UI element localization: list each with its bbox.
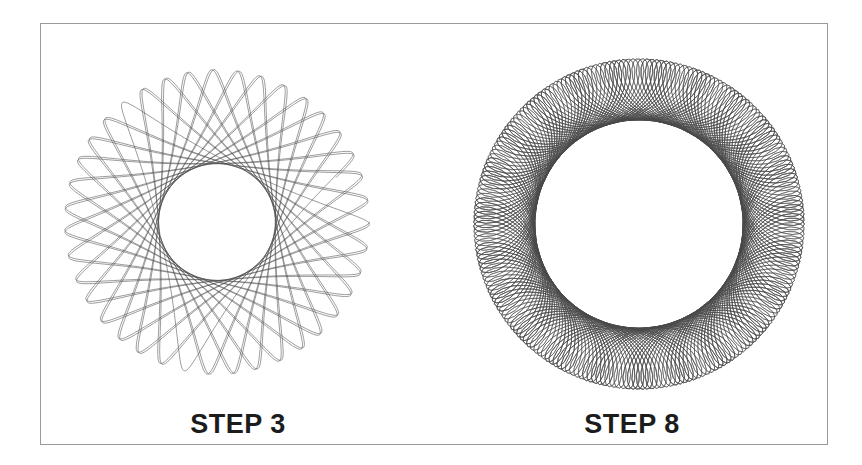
spirograph-step-3	[19, 24, 415, 420]
spirograph-step-8	[459, 44, 819, 404]
figure-panel-step-3: STEP 3	[41, 24, 435, 444]
figure-panel-step-8: STEP 8	[435, 24, 829, 444]
page-canvas: STEP 3 STEP 8	[0, 0, 862, 465]
caption-step-8: STEP 8	[435, 409, 829, 440]
figure-frame: STEP 3 STEP 8	[40, 23, 828, 445]
caption-step-3: STEP 3	[41, 409, 435, 440]
